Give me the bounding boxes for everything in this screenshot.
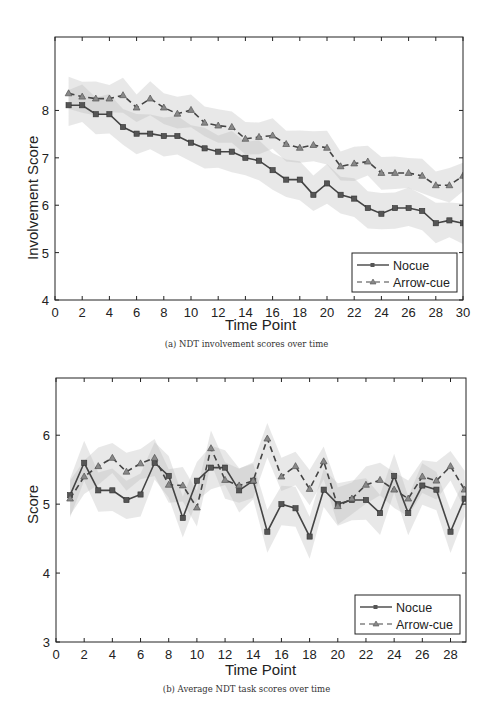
y-tick-label: 6	[42, 198, 49, 213]
y-tick-label: 6	[43, 428, 50, 443]
figure-caption: (a) NDT involvement scores over time	[0, 339, 493, 349]
figure-caption: (b) Average NDT task scores over time	[0, 684, 493, 694]
x-tick-label: 18	[302, 647, 316, 662]
x-tick-label: 24	[387, 647, 401, 662]
legend-label-arrowcue: Arrow-cue	[393, 276, 450, 290]
square-marker	[311, 192, 316, 197]
square-marker	[237, 488, 242, 493]
x-tick-label: 26	[415, 647, 429, 662]
square-marker	[270, 168, 275, 173]
x-tick-label: 4	[109, 647, 116, 662]
x-tick-label: 10	[190, 647, 204, 662]
square-marker	[321, 487, 326, 492]
square-marker	[166, 473, 171, 478]
figure-b-task-scores: 02468101214161820222426283456NocueArrow-…	[0, 356, 493, 712]
square-marker	[202, 146, 207, 151]
square-marker	[284, 177, 289, 182]
square-marker	[243, 155, 248, 160]
y-tick-label: 8	[42, 103, 49, 118]
y-tick-label: 4	[42, 293, 49, 308]
square-marker	[406, 511, 411, 516]
x-tick-label: 2	[81, 647, 88, 662]
x-tick-label: 28	[443, 647, 457, 662]
y-tick-label: 4	[43, 566, 50, 581]
y-tick-label: 5	[43, 497, 50, 512]
square-marker	[180, 515, 185, 520]
square-marker	[256, 158, 261, 163]
square-marker	[134, 131, 139, 136]
legend: NocueArrow-cue	[352, 253, 457, 292]
square-marker	[279, 502, 284, 507]
square-marker	[110, 488, 115, 493]
square-marker	[138, 492, 143, 497]
square-marker	[433, 221, 438, 226]
legend: NocueArrow-cue	[355, 595, 460, 634]
square-marker	[216, 149, 221, 154]
square-marker	[82, 460, 87, 465]
x-tick-label: 8	[165, 647, 172, 662]
square-marker	[265, 529, 270, 534]
square-marker	[392, 473, 397, 478]
x-tick-label: 16	[274, 647, 288, 662]
square-marker	[434, 487, 439, 492]
square-marker	[222, 465, 227, 470]
square-marker	[229, 149, 234, 154]
square-marker	[377, 511, 382, 516]
square-marker	[194, 478, 199, 483]
y-axis-label: Score	[24, 485, 41, 524]
square-marker	[307, 534, 312, 539]
square-marker	[420, 208, 425, 213]
square-marker	[188, 140, 193, 145]
square-marker	[120, 124, 125, 129]
square-marker	[148, 131, 153, 136]
square-marker	[420, 483, 425, 488]
square-marker	[124, 497, 129, 502]
x-tick-label: 0	[52, 647, 59, 662]
square-marker	[447, 218, 452, 223]
chart-a-plot: 02468101214161820222426283045678NocueArr…	[0, 0, 493, 356]
square-marker	[293, 506, 298, 511]
x-axis-label: Time Point	[28, 316, 493, 333]
legend-label-nocue: Nocue	[393, 259, 429, 273]
x-tick-label: 6	[137, 647, 144, 662]
x-axis-label: Time Point	[28, 661, 493, 678]
x-tick-label: 20	[331, 647, 345, 662]
square-marker	[66, 103, 71, 108]
square-marker	[80, 103, 85, 108]
legend-label-nocue: Nocue	[396, 601, 432, 615]
square-marker	[93, 112, 98, 117]
x-tick-label: 22	[359, 647, 373, 662]
square-marker	[297, 177, 302, 182]
square-marker	[324, 181, 329, 186]
square-marker	[175, 133, 180, 138]
square-marker	[96, 488, 101, 493]
square-marker	[208, 465, 213, 470]
square-marker	[392, 205, 397, 210]
legend-label-arrowcue: Arrow-cue	[396, 618, 453, 632]
square-marker	[365, 205, 370, 210]
y-tick-label: 7	[42, 151, 49, 166]
x-tick-label: 12	[218, 647, 232, 662]
y-tick-label: 3	[43, 635, 50, 650]
square-marker	[338, 192, 343, 197]
figure-a-involvement: 02468101214161820222426283045678NocueArr…	[0, 0, 493, 356]
square-marker	[161, 133, 166, 138]
square-marker	[448, 529, 453, 534]
square-marker	[107, 112, 112, 117]
chart-b-plot: 02468101214161820222426283456NocueArrow-…	[0, 356, 493, 712]
square-marker	[352, 196, 357, 201]
x-tick-label: 14	[246, 647, 260, 662]
y-axis-label: Involvement Score	[24, 136, 41, 260]
square-marker	[363, 497, 368, 502]
square-marker	[406, 205, 411, 210]
square-marker	[379, 211, 384, 216]
y-tick-label: 5	[42, 246, 49, 261]
